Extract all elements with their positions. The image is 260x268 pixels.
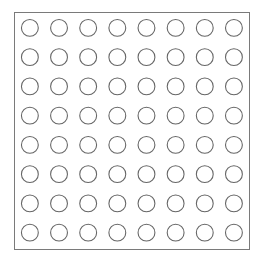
grid-cell-circle	[21, 195, 38, 212]
grid-cell-circle	[109, 166, 126, 183]
grid-cell-circle	[226, 136, 243, 153]
grid-cell-circle	[226, 166, 243, 183]
grid-cell-circle	[21, 49, 38, 66]
grid-cell-circle	[226, 195, 243, 212]
grid-cell-circle	[167, 78, 184, 95]
grid-cell-circle	[226, 107, 243, 124]
grid-cell-circle	[196, 107, 213, 124]
grid-cell-circle	[109, 78, 126, 95]
grid-cell-circle	[51, 195, 68, 212]
grid-cell-circle	[109, 49, 126, 66]
grid-cell-circle	[138, 136, 155, 153]
circle-grid	[15, 13, 249, 249]
grid-cell-circle	[109, 136, 126, 153]
grid-cell-circle	[80, 166, 97, 183]
grid-cell-circle	[80, 224, 97, 241]
grid-cell-circle	[109, 107, 126, 124]
grid-cell-circle	[167, 224, 184, 241]
grid-cell-circle	[21, 136, 38, 153]
grid-cell-circle	[51, 166, 68, 183]
grid-cell-circle	[138, 166, 155, 183]
grid-cell-circle	[167, 49, 184, 66]
grid-cell-circle	[226, 78, 243, 95]
grid-cell-circle	[196, 195, 213, 212]
grid-cell-circle	[167, 136, 184, 153]
grid-cell-circle	[167, 166, 184, 183]
grid-cell-circle	[21, 224, 38, 241]
grid-cell-circle	[80, 195, 97, 212]
grid-cell-circle	[196, 19, 213, 36]
grid-cell-circle	[138, 78, 155, 95]
grid-cell-circle	[109, 195, 126, 212]
grid-cell-circle	[226, 19, 243, 36]
grid-cell-circle	[196, 78, 213, 95]
grid-cell-circle	[51, 78, 68, 95]
grid-cell-circle	[109, 224, 126, 241]
grid-cell-circle	[138, 49, 155, 66]
grid-cell-circle	[51, 49, 68, 66]
grid-cell-circle	[138, 195, 155, 212]
grid-cell-circle	[226, 224, 243, 241]
grid-cell-circle	[196, 224, 213, 241]
grid-cell-circle	[109, 19, 126, 36]
grid-cell-circle	[167, 107, 184, 124]
grid-cell-circle	[196, 49, 213, 66]
grid-cell-circle	[21, 78, 38, 95]
grid-cell-circle	[21, 19, 38, 36]
grid-cell-circle	[167, 195, 184, 212]
grid-cell-circle	[51, 19, 68, 36]
grid-cell-circle	[226, 49, 243, 66]
grid-cell-circle	[138, 19, 155, 36]
grid-cell-circle	[196, 136, 213, 153]
grid-cell-circle	[80, 136, 97, 153]
grid-cell-circle	[21, 166, 38, 183]
grid-cell-circle	[51, 224, 68, 241]
grid-cell-circle	[138, 224, 155, 241]
grid-cell-circle	[196, 166, 213, 183]
grid-cell-circle	[80, 107, 97, 124]
grid-cell-circle	[167, 19, 184, 36]
grid-cell-circle	[21, 107, 38, 124]
grid-cell-circle	[80, 78, 97, 95]
grid-cell-circle	[51, 136, 68, 153]
grid-cell-circle	[80, 49, 97, 66]
grid-cell-circle	[138, 107, 155, 124]
grid-cell-circle	[80, 19, 97, 36]
grid-cell-circle	[51, 107, 68, 124]
circle-grid-frame	[14, 12, 250, 250]
